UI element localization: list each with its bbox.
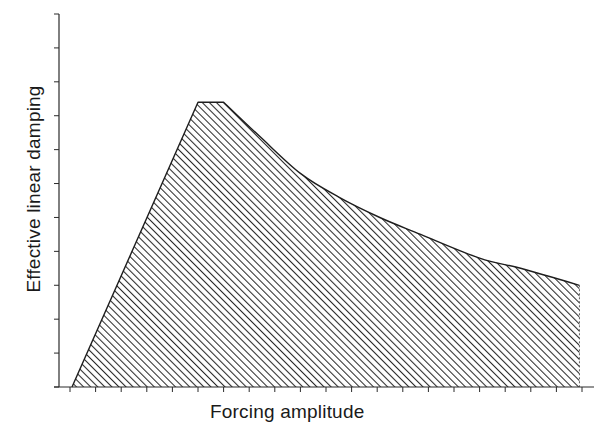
y-axis [54,14,59,387]
chart-plot-area [0,0,612,442]
x-axis-label: Forcing amplitude [210,401,364,423]
x-axis [54,387,594,392]
damping-area [72,102,579,387]
y-axis-label: Effective linear damping [23,85,45,292]
